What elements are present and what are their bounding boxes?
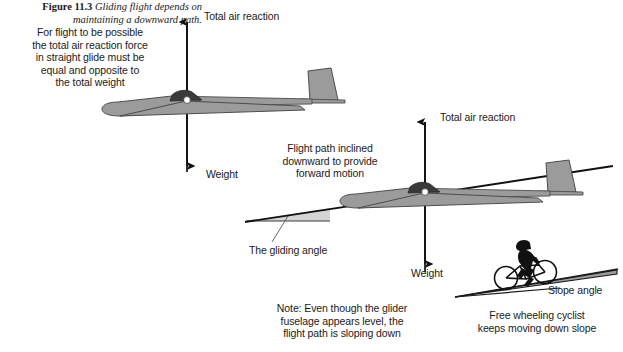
label-total-air-reaction-lower: Total air reaction: [440, 111, 570, 124]
label-weight-upper: Weight: [206, 168, 266, 181]
label-gliding-angle: The gliding angle: [249, 244, 359, 257]
note-fuselage-level: Note: Even though the glider fuselage ap…: [257, 302, 427, 340]
label-total-air-reaction-upper: Total air reaction: [204, 10, 334, 23]
note-free-wheeling-cyclist: Free wheeling cyclist keeps moving down …: [462, 309, 612, 334]
label-weight-lower: Weight: [411, 267, 471, 280]
figure-gliding-flight: For flight to be possible the total air …: [0, 0, 623, 352]
label-slope-angle: Slope angle: [548, 284, 620, 297]
note-flight-path-inclined: Flight path inclined downward to provide…: [264, 142, 396, 180]
gliding-angle-group: [246, 208, 330, 242]
note-equal-and-opposite: For flight to be possible the total air …: [8, 26, 172, 89]
